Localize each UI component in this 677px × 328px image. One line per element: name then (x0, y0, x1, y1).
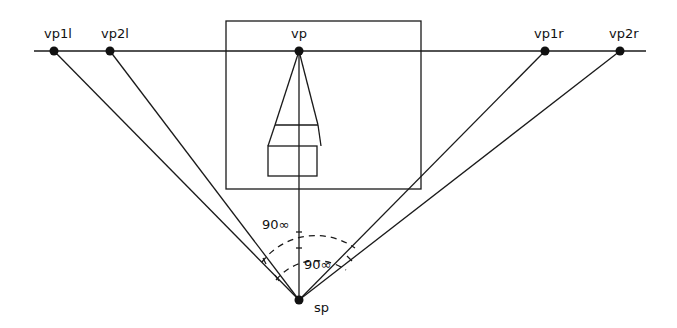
sightline-vp2r (299, 51, 620, 300)
sightline-vp1r (299, 51, 545, 300)
label-vp1l: vp1l (44, 26, 72, 41)
point-vp (295, 47, 304, 56)
point-sp (295, 296, 304, 305)
point-vp2r (616, 47, 625, 56)
label-vp: vp (291, 26, 307, 41)
point-vp1l (50, 47, 59, 56)
point-vp1r (541, 47, 550, 56)
label-vp2l: vp2l (101, 26, 129, 41)
label-sp: sp (314, 300, 329, 315)
label-vp2r: vp2r (609, 26, 639, 41)
sightline-vp1l (54, 51, 299, 300)
perspective-box (268, 51, 321, 176)
label-vp1r: vp1r (534, 26, 564, 41)
angle-label-inner: 90∞ (304, 257, 331, 272)
angle-label-outer: 90∞ (262, 217, 289, 232)
picture-frame (226, 21, 421, 189)
point-vp2l (106, 47, 115, 56)
perspective-diagram: vp1l vp2l vp vp1r vp2r sp 90∞ 90∞ (0, 0, 677, 328)
